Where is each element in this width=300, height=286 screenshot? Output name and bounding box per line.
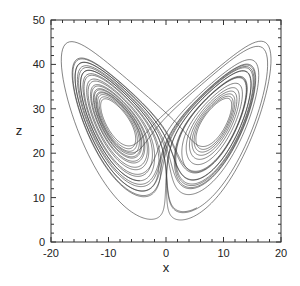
lorenz-attractor-chart: -20-1001020 01020304050 x z bbox=[0, 0, 300, 286]
y-tick-label: 10 bbox=[33, 192, 45, 204]
x-axis-tick-labels: -20-1001020 bbox=[43, 247, 287, 259]
y-tick-label: 40 bbox=[33, 58, 45, 70]
x-tick-label: -20 bbox=[43, 247, 59, 259]
x-tick-label: -10 bbox=[101, 247, 117, 259]
x-tick-label: 0 bbox=[163, 247, 169, 259]
y-tick-label: 50 bbox=[33, 14, 45, 26]
trajectory-line bbox=[61, 41, 271, 220]
y-tick-label: 30 bbox=[33, 103, 45, 115]
x-axis-label: x bbox=[163, 260, 170, 275]
x-tick-label: 20 bbox=[275, 247, 287, 259]
plot-area bbox=[61, 41, 271, 220]
x-tick-label: 10 bbox=[217, 247, 229, 259]
y-tick-label: 20 bbox=[33, 147, 45, 159]
y-axis-tick-labels: 01020304050 bbox=[33, 14, 45, 248]
y-tick-label: 0 bbox=[39, 236, 45, 248]
y-axis-label: z bbox=[16, 123, 23, 138]
